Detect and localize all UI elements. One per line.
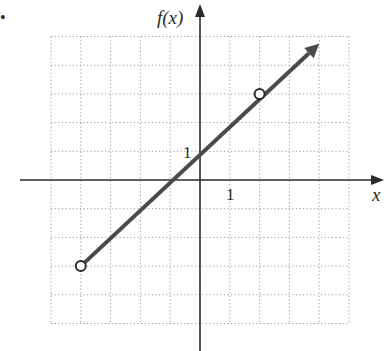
y-axis-arrow-icon — [195, 4, 205, 17]
x-tick-label-1: 1 — [226, 185, 235, 204]
hole-marker — [255, 89, 265, 99]
function-graph: • f(x) x 1 1 — [0, 0, 384, 351]
function-line — [76, 44, 319, 271]
y-tick-label-1: 1 — [183, 143, 192, 162]
open-endpoint-marker — [76, 261, 86, 271]
y-axis-label: f(x) — [157, 7, 183, 29]
axes — [20, 4, 384, 351]
bullet-marker: • — [0, 9, 6, 26]
x-axis-label: x — [371, 184, 381, 205]
